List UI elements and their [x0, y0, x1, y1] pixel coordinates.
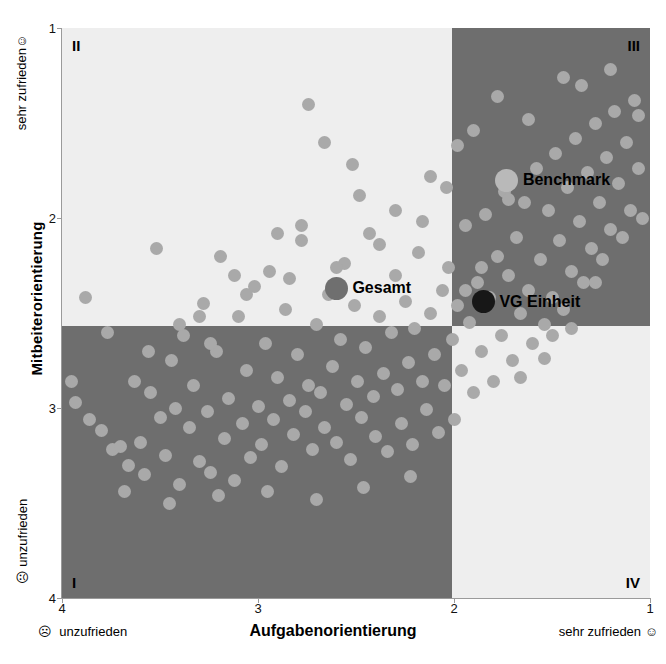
scatter-point [367, 390, 380, 403]
scatter-point [628, 94, 641, 107]
x-tick-label: 4 [58, 601, 65, 616]
scatter-point [283, 272, 296, 285]
happy-face-icon: ☺ [14, 35, 29, 48]
marker-label-vg-einheit: VG Einheit [499, 293, 580, 311]
scatter-point [416, 215, 429, 228]
scatter-point [275, 460, 288, 473]
scatter-point [369, 430, 382, 443]
scatter-point [471, 276, 484, 289]
scatter-point [318, 136, 331, 149]
scatter-point [557, 71, 570, 84]
scatter-point [252, 400, 265, 413]
scatter-point [542, 204, 555, 217]
scatter-point [463, 316, 476, 329]
scatter-point [142, 345, 155, 358]
plot-area: II III I IV GesamtVG EinheitBenchmark [62, 28, 650, 598]
scatter-point [144, 386, 157, 399]
scatter-point [565, 265, 578, 278]
scatter-point [604, 223, 617, 236]
scatter-point [138, 468, 151, 481]
scatter-point [79, 291, 92, 304]
scatter-point [173, 478, 186, 491]
scatter-point [101, 326, 114, 339]
scatter-point [310, 493, 323, 506]
scatter-point [169, 402, 182, 415]
y-axis-bottom-note: ☹ unzufrieden [15, 492, 30, 592]
scatter-point [510, 231, 523, 244]
scatter-point [240, 288, 253, 301]
scatter-point [495, 329, 508, 342]
scatter-point [187, 379, 200, 392]
x-axis-left-note: ☹ unzufrieden [38, 624, 127, 639]
marker-label-benchmark: Benchmark [523, 171, 610, 189]
scatter-point [118, 485, 131, 498]
scatter-point [459, 284, 472, 297]
scatter-point [212, 489, 225, 502]
scatter-point [255, 438, 268, 451]
scatter-point [359, 341, 372, 354]
scatter-point [632, 109, 645, 122]
scatter-point [291, 348, 304, 361]
scatter-point [363, 227, 376, 240]
scatter-point [573, 215, 586, 228]
scatter-point [228, 474, 241, 487]
scatter-point [163, 497, 176, 510]
scatter-point [408, 322, 421, 335]
scatter-point [357, 481, 370, 494]
scatter-point [271, 371, 284, 384]
scatter-point [593, 196, 606, 209]
sad-face-icon-x: ☹ [38, 624, 52, 639]
scatter-point [446, 333, 459, 346]
scatter-point [424, 170, 437, 183]
scatter-point [377, 367, 390, 380]
scatter-point [193, 455, 206, 468]
y-axis-title: Mitbeiterorientierung [28, 184, 45, 414]
scatter-point [565, 322, 578, 335]
scatter-point [406, 438, 419, 451]
scatter-point [150, 242, 163, 255]
y-tick-mark [57, 218, 62, 219]
marker-vg-einheit [472, 290, 495, 313]
scatter-point [218, 432, 231, 445]
scatter-point [228, 269, 241, 282]
scatter-point [575, 79, 588, 92]
scatter-point [636, 212, 649, 225]
scatter-point [475, 261, 488, 274]
scatter-point [585, 242, 598, 255]
scatter-point [373, 238, 386, 251]
y-tick-label: 3 [44, 401, 56, 416]
scatter-point [373, 310, 386, 323]
x-tick-mark [62, 598, 63, 603]
scatter-point [330, 261, 343, 274]
scatter-point [389, 204, 402, 217]
scatter-point [632, 162, 645, 175]
scatter-point [589, 276, 602, 289]
scatter-point [128, 375, 141, 388]
scatter-point [340, 398, 353, 411]
scatter-point [193, 310, 206, 323]
scatter-point [402, 356, 415, 369]
scatter-point [569, 132, 582, 145]
sad-face-icon: ☹ [15, 570, 30, 584]
scatter-point [214, 250, 227, 263]
scatter-point [326, 360, 339, 373]
scatter-point [330, 436, 343, 449]
scatter-point [534, 253, 547, 266]
scatter-point [344, 453, 357, 466]
scatter-points-layer [62, 28, 650, 598]
scatter-point [165, 354, 178, 367]
scatter-point [177, 329, 190, 342]
scatter-point [616, 231, 629, 244]
scatter-point [600, 151, 613, 164]
scatter-point [487, 375, 500, 388]
scatter-point [114, 440, 127, 453]
scatter-point [448, 413, 461, 426]
y-axis-line [61, 28, 62, 599]
marker-gesamt [325, 277, 348, 300]
scatter-point [467, 386, 480, 399]
scatter-point [261, 485, 274, 498]
scatter-point [620, 136, 633, 149]
scatter-point [69, 396, 82, 409]
scatter-point [236, 417, 249, 430]
y-tick-label: 2 [44, 211, 56, 226]
